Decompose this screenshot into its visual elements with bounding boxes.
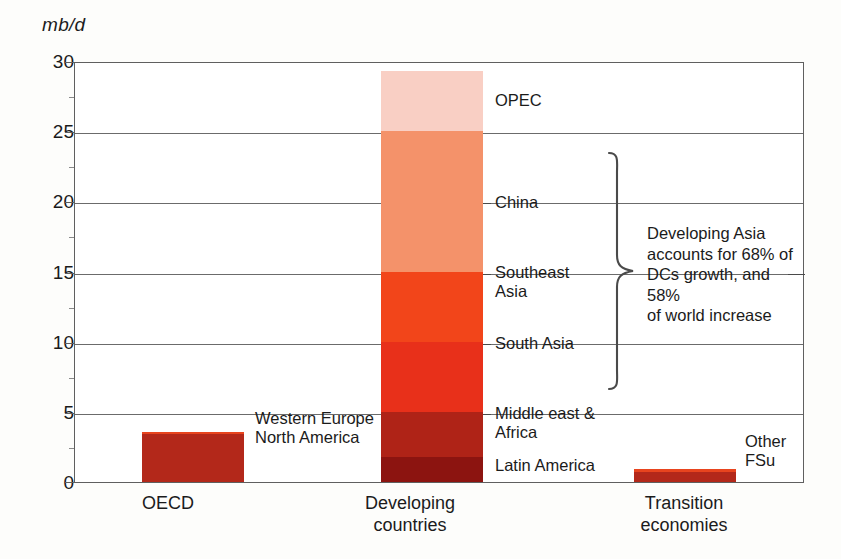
y-axis-unit-label: mb/d — [42, 14, 85, 36]
segment-tick-southeast-asia — [483, 274, 491, 275]
chart-container: mb/d 30 25 20 15 10 5 0 — [0, 0, 841, 559]
bar-developing-countries — [381, 71, 483, 482]
bar-segment-china — [381, 131, 483, 271]
segment-label-latin-america: Latin America — [495, 456, 595, 475]
y-tick-mark-5 — [65, 413, 74, 414]
plot-area: OPEC China Southeast Asia South Asia Mid… — [74, 62, 804, 483]
segment-label-other-fsu: Other FSu — [745, 432, 786, 470]
bar-segment-other-fsu — [634, 472, 736, 482]
y-axis: 30 25 20 15 10 5 0 — [0, 62, 74, 483]
bar-segment-south-asia — [381, 342, 483, 412]
segment-label-china: China — [495, 193, 538, 212]
segment-label-opec: OPEC — [495, 91, 542, 110]
y-tick-mark-20 — [65, 202, 74, 203]
segment-label-middle-east-africa: Middle east & Africa — [495, 404, 595, 442]
curly-brace-icon — [603, 151, 639, 391]
y-tick-mark-0 — [65, 482, 74, 483]
bar-segment-middle-east-africa — [381, 412, 483, 457]
bar-segment-oecd-western-europe-north-america — [142, 434, 244, 482]
annotation-tick — [788, 274, 805, 275]
annotation-developing-asia: Developing Asia accounts for 68% of DCs … — [647, 223, 803, 326]
category-label-oecd: OECD — [108, 492, 228, 514]
category-label-transition-economies: Transition economies — [594, 492, 774, 536]
bar-segment-southeast-asia — [381, 272, 483, 342]
bar-segment-oecd-cap — [142, 432, 244, 435]
segment-tick-middle-east-africa — [483, 414, 491, 415]
segment-label-south-asia: South Asia — [495, 334, 574, 353]
y-tick-mark-10 — [65, 343, 74, 344]
y-tick-mark-15 — [65, 273, 74, 274]
segment-tick-south-asia — [483, 344, 491, 345]
bar-oecd — [142, 432, 244, 483]
category-label-developing-countries: Developing countries — [320, 492, 500, 536]
segment-label-southeast-asia: Southeast Asia — [495, 263, 569, 301]
bar-transition-economies — [634, 469, 736, 482]
segment-label-oecd-regions: Western Europe North America — [255, 409, 374, 447]
y-tick-mark-30 — [65, 62, 74, 63]
y-tick-mark-25 — [65, 132, 74, 133]
bar-segment-transition-cap — [634, 469, 736, 472]
y-tick-label-0: 0 — [28, 472, 74, 494]
bar-segment-latin-america — [381, 457, 483, 482]
bar-segment-opec — [381, 71, 483, 131]
segment-tick-china — [483, 203, 491, 204]
